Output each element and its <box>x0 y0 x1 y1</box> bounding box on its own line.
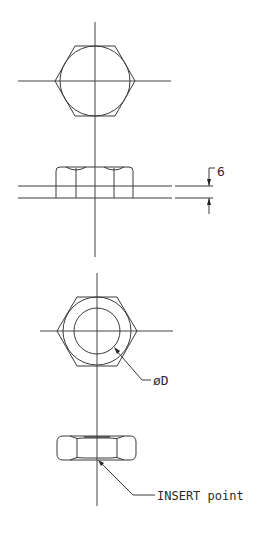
insert-point-label: INSERT point <box>157 489 244 503</box>
cad-drawing-canvas: 6 øD INSERT point <box>0 0 267 535</box>
diameter-label: øD <box>153 373 169 388</box>
top-plan-view <box>18 22 171 257</box>
diameter-leader-diagonal <box>115 349 142 380</box>
insert-point-callout: INSERT point <box>98 460 244 503</box>
thickness-dimension: 6 <box>207 164 225 214</box>
bottom-plan-view: øD <box>40 273 173 506</box>
dim-arrow-up-icon <box>207 198 211 205</box>
bottom-side-view: INSERT point <box>57 436 244 503</box>
thickness-dimension-label: 6 <box>217 164 225 179</box>
insert-leader-diagonal <box>100 462 133 495</box>
top-side-view: 6 <box>18 164 225 214</box>
dim-arrow-down-icon <box>207 179 211 186</box>
